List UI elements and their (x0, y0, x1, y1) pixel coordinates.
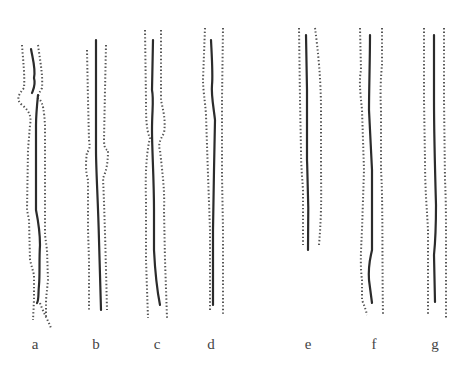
panel-d-trace (203, 28, 223, 315)
panel-a-trace (18, 45, 51, 328)
panel-label-c: c (154, 336, 161, 353)
panel-b-trace (86, 40, 108, 310)
panel-label-d: d (207, 336, 215, 353)
panel-label-e: e (305, 336, 312, 353)
panel-f-trace (360, 28, 383, 315)
panel-e-trace (299, 28, 321, 250)
panel-label-b: b (92, 336, 100, 353)
panel-c-trace (145, 30, 167, 318)
panel-label-a: a (32, 336, 39, 353)
panel-label-g: g (431, 336, 439, 353)
panel-label-f: f (372, 336, 377, 353)
diagram-canvas (0, 0, 466, 373)
panel-g-trace (424, 28, 446, 318)
